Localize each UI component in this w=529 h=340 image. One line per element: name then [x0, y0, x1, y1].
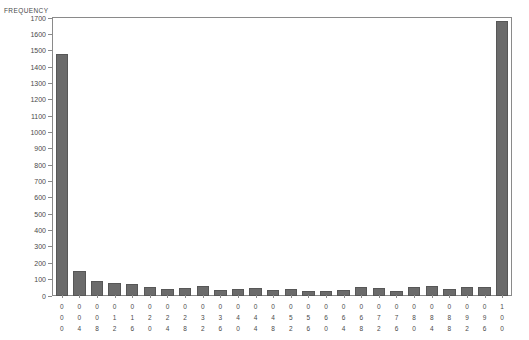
bar-slot [214, 18, 226, 296]
x-tick-mark [502, 295, 503, 298]
bar-slot [478, 18, 490, 296]
bar-slot [108, 18, 120, 296]
y-tick-label: 0 [42, 292, 46, 301]
y-tick-label: 900 [34, 144, 46, 153]
x-tick-label: 032 [194, 301, 212, 334]
bar-slot [408, 18, 420, 296]
y-tick-label: 1500 [30, 46, 46, 55]
bar-slot [390, 18, 402, 296]
x-tick-label: 056 [300, 301, 318, 334]
x-tick-mark [150, 295, 151, 298]
x-axis-ticks: 0000040080120160200240280320360400440480… [53, 297, 511, 340]
x-tick-mark [273, 295, 274, 298]
frequency-histogram: FREQUENCY 010020030040050060070080090010… [0, 0, 529, 340]
bar[interactable] [56, 54, 68, 296]
y-axis-ticks: 0100200300400500600700800900100011001200… [0, 0, 52, 340]
y-tick-label: 1100 [31, 112, 46, 121]
x-tick-label: 000 [53, 301, 71, 334]
x-tick-mark [485, 295, 486, 298]
bar[interactable] [91, 281, 103, 296]
x-tick-label: 028 [176, 301, 194, 334]
x-tick-mark [97, 295, 98, 298]
bar-slot [144, 18, 156, 296]
x-tick-mark [467, 295, 468, 298]
x-tick-label: 080 [405, 301, 423, 334]
x-tick-label: 092 [458, 301, 476, 334]
y-tick-label: 700 [34, 177, 46, 186]
x-tick-label: 052 [282, 301, 300, 334]
x-tick-mark [449, 295, 450, 298]
x-tick-mark [414, 295, 415, 298]
x-tick-mark [308, 295, 309, 298]
y-tick-label: 1400 [30, 63, 46, 72]
x-tick-label: 072 [370, 301, 388, 334]
bar-slot [461, 18, 473, 296]
bar-slot [179, 18, 191, 296]
bar[interactable] [73, 271, 85, 296]
x-tick-label: 064 [335, 301, 353, 334]
y-tick-label: 600 [34, 193, 46, 202]
x-tick-label: 068 [352, 301, 370, 334]
y-tick-label: 1600 [30, 30, 46, 39]
x-tick-mark [291, 295, 292, 298]
bar-slot [91, 18, 103, 296]
y-tick-label: 1300 [30, 79, 46, 88]
y-tick-label: 200 [34, 259, 46, 268]
y-tick-label: 500 [34, 210, 46, 219]
bar-slot [73, 18, 85, 296]
x-tick-label: 100 [493, 301, 511, 334]
bar-slot [232, 18, 244, 296]
x-tick-mark [79, 295, 80, 298]
x-tick-label: 088 [441, 301, 459, 334]
bar-slot [126, 18, 138, 296]
x-tick-mark [238, 295, 239, 298]
y-tick-label: 1200 [30, 95, 46, 104]
x-tick-label: 036 [212, 301, 230, 334]
x-tick-mark [185, 295, 186, 298]
bar-slot [267, 18, 279, 296]
x-tick-mark [432, 295, 433, 298]
bar-slot [285, 18, 297, 296]
bar[interactable] [496, 21, 508, 296]
x-tick-mark [344, 295, 345, 298]
x-tick-label: 020 [141, 301, 159, 334]
x-tick-mark [62, 295, 63, 298]
y-tick-label: 800 [34, 161, 46, 170]
x-tick-label: 048 [264, 301, 282, 334]
y-tick-label: 1000 [30, 128, 46, 137]
bar-slot [56, 18, 68, 296]
x-tick-mark [396, 295, 397, 298]
x-tick-label: 008 [88, 301, 106, 334]
x-tick-mark [361, 295, 362, 298]
x-tick-label: 084 [423, 301, 441, 334]
y-tick-label: 100 [34, 275, 46, 284]
x-tick-label: 060 [317, 301, 335, 334]
x-tick-mark [167, 295, 168, 298]
x-tick-mark [379, 295, 380, 298]
x-tick-label: 016 [123, 301, 141, 334]
x-tick-mark [256, 295, 257, 298]
bar-slot [426, 18, 438, 296]
bar-slot [249, 18, 261, 296]
bar-slot [197, 18, 209, 296]
bar-slot [443, 18, 455, 296]
y-tick-label: 1700 [30, 14, 46, 23]
bar-series [53, 18, 511, 296]
x-tick-label: 004 [71, 301, 89, 334]
x-tick-label: 096 [476, 301, 494, 334]
x-tick-label: 024 [159, 301, 177, 334]
bar-slot [161, 18, 173, 296]
bar-slot [337, 18, 349, 296]
bar-slot [302, 18, 314, 296]
bar-slot [320, 18, 332, 296]
bar-slot [355, 18, 367, 296]
x-tick-label: 012 [106, 301, 124, 334]
x-tick-mark [115, 295, 116, 298]
x-tick-label: 040 [229, 301, 247, 334]
x-tick-mark [220, 295, 221, 298]
x-tick-label: 076 [388, 301, 406, 334]
bar-slot [496, 18, 508, 296]
x-tick-label: 044 [247, 301, 265, 334]
y-tick-label: 400 [34, 226, 46, 235]
bar-slot [373, 18, 385, 296]
